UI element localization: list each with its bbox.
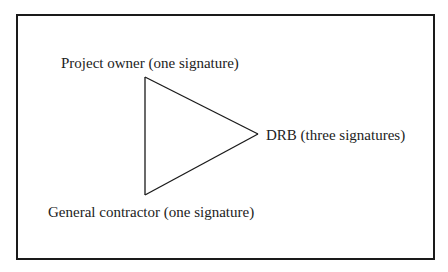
node-label-drb: DRB (three signatures) (266, 128, 405, 143)
edge-contractor-drb (145, 134, 258, 195)
edge-owner-drb (145, 77, 258, 134)
node-label-project-owner: Project owner (one signature) (61, 56, 239, 71)
node-label-general-contractor: General contractor (one signature) (48, 205, 254, 220)
